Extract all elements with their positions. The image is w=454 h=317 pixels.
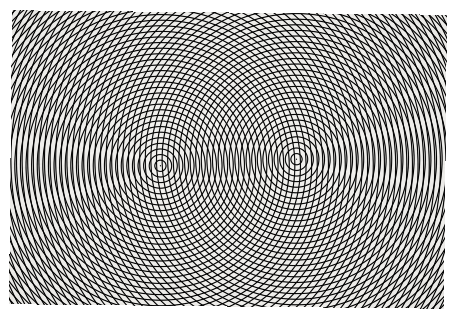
- moire-figure: A black and white photograph of a moire …: [0, 0, 454, 317]
- moire-pattern-canvas: [0, 0, 454, 317]
